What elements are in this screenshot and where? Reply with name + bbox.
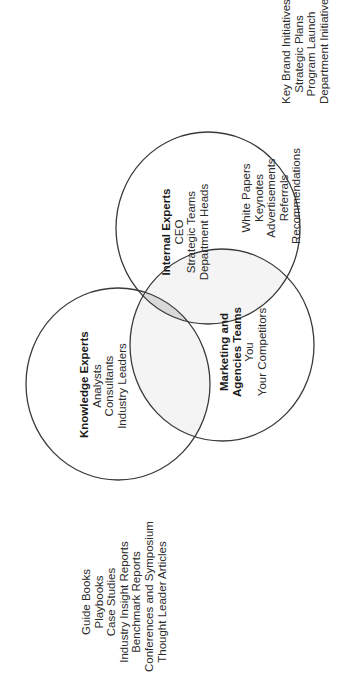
internal-experts-label: Internal Experts CEO Strategic Teams Dep… xyxy=(160,182,210,282)
list-item: Advertisements xyxy=(265,152,278,244)
circle-title: Internal Experts xyxy=(160,182,173,282)
list-item: Keynotes xyxy=(253,152,266,244)
knowledge-outside-list: Guide Books Playbooks Case Studies Indus… xyxy=(80,532,168,672)
member: Strategic Teams xyxy=(185,182,198,282)
venn-diagram xyxy=(0,0,357,699)
circle-title: Marketing and xyxy=(218,302,231,402)
list-item: Playbooks xyxy=(93,532,106,672)
list-item: Thought Leader Articles xyxy=(156,532,169,672)
member: Industry Leaders xyxy=(116,334,129,438)
list-item: Guide Books xyxy=(80,532,93,672)
member: Department Heads xyxy=(198,182,211,282)
list-item: White Papers xyxy=(240,152,253,244)
marketing-outside-list: White Papers Keynotes Advertisements Ref… xyxy=(240,152,303,244)
member: Analysts xyxy=(91,334,104,438)
list-item: Key Brand Initiatives xyxy=(280,4,293,104)
list-item: Case Studies xyxy=(105,532,118,672)
knowledge-experts-label: Knowledge Experts Analysts Consultants I… xyxy=(78,334,128,438)
marketing-agencies-label: Marketing and Agencies Teams You Your Co… xyxy=(218,302,268,402)
list-item: Referrals xyxy=(278,152,291,244)
list-item: Industry Insight Reports xyxy=(118,532,131,672)
list-item: Benchmark Reports xyxy=(130,532,143,672)
list-item: Conferences and Symposium xyxy=(143,532,156,672)
list-item: Recommendations xyxy=(290,152,303,244)
list-item: Department Initiatives xyxy=(318,4,331,104)
list-item: Strategic Plans xyxy=(293,4,306,104)
member: CEO xyxy=(173,182,186,282)
internal-outside-list: Key Brand Initiatives Strategic Plans Pr… xyxy=(280,4,330,104)
member: Your Competitors xyxy=(256,302,269,402)
circle-title: Knowledge Experts xyxy=(78,334,91,438)
circle-title: Agencies Teams xyxy=(231,302,244,402)
member: Consultants xyxy=(103,334,116,438)
member: You xyxy=(243,302,256,402)
list-item: Program Launch xyxy=(305,4,318,104)
